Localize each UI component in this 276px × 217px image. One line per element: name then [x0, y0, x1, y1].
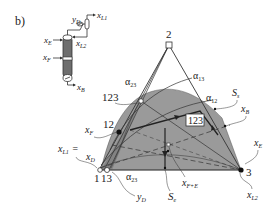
ternary-diagram: b) yD xL1 xE xL2 xF xB: [0, 0, 276, 217]
arrow-icon: [72, 36, 75, 39]
svg-text:123: 123: [102, 91, 119, 103]
column-schematic: yD xL1 xE xL2 xF xB: [42, 10, 107, 93]
svg-text:xL2: xL2: [75, 38, 86, 49]
svg-text:2: 2: [166, 28, 172, 40]
arrow-icon: [93, 14, 96, 17]
point-123-marker: [139, 99, 144, 104]
svg-text:xE: xE: [43, 35, 52, 46]
svg-text:α13: α13: [193, 70, 204, 82]
column-top-cap: [63, 35, 72, 40]
svg-text:xB: xB: [76, 82, 85, 93]
svg-text:α23: α23: [125, 76, 136, 88]
point-12-marker: [116, 129, 121, 134]
panel-label: b): [15, 14, 25, 28]
svg-text:3: 3: [246, 166, 252, 178]
svg-text:α12: α12: [206, 92, 217, 104]
svg-text:123: 123: [188, 115, 203, 126]
decanter-icon: [85, 19, 89, 29]
svg-text:xD: xD: [85, 151, 95, 163]
svg-text:xF+E: xF+E: [181, 177, 198, 189]
vertex-2-marker: [166, 42, 172, 48]
ternary-plot: 123 2 1 13 3 12 123 α23 α13 α12 α23 Ss x…: [57, 28, 262, 203]
svg-text:α23: α23: [126, 171, 137, 183]
svg-text:xF: xF: [84, 124, 93, 136]
svg-text:xE: xE: [253, 137, 262, 149]
xFE-marker: [167, 143, 170, 146]
svg-text:xL2: xL2: [246, 189, 258, 201]
svg-text:xL1=: xL1=: [57, 143, 79, 155]
svg-text:Se: Se: [168, 190, 177, 203]
svg-text:yD: yD: [136, 191, 146, 203]
svg-text:13: 13: [101, 172, 113, 184]
arrow-icon: [60, 39, 63, 42]
svg-text:1: 1: [94, 172, 100, 184]
svg-text:xL1: xL1: [96, 10, 107, 21]
arrow-icon: [73, 84, 76, 87]
vertex-3-marker: [238, 167, 243, 172]
arrow-icon: [60, 57, 63, 60]
feed-stage: [63, 57, 72, 60]
svg-text:xF: xF: [42, 52, 51, 63]
svg-text:xB: xB: [240, 103, 249, 115]
svg-text:Ss: Ss: [232, 87, 240, 99]
svg-text:12: 12: [103, 118, 114, 130]
svg-text:yD: yD: [71, 14, 81, 25]
